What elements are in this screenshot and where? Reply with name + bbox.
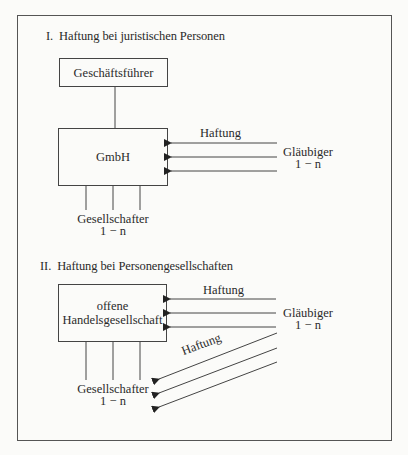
shareholder-liability-arrow-2 — [159, 348, 277, 393]
shareholder-liability-arrow-1 — [159, 333, 277, 379]
connector-lines — [0, 0, 408, 455]
shareholder-liability-arrow-3 — [159, 362, 277, 407]
